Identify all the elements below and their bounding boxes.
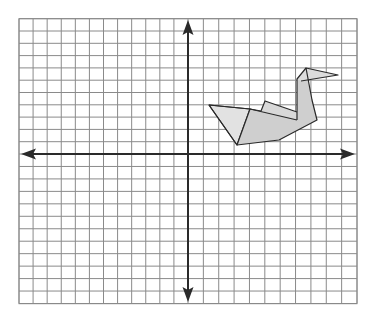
coordinate-plane-figure	[0, 0, 372, 321]
swan-shape	[209, 68, 338, 145]
y-axis	[183, 20, 194, 302]
coordinate-grid	[0, 0, 372, 321]
